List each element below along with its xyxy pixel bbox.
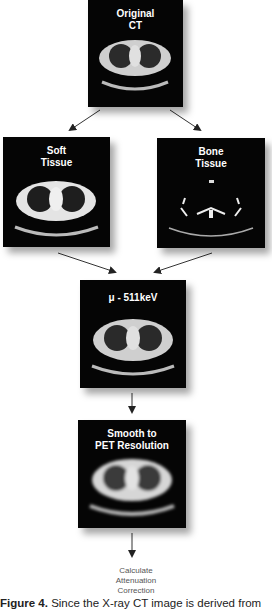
node-label: Soft Tissue: [3, 145, 110, 169]
calculate-attenuation-label: Calculate Attenuation Correction: [86, 566, 186, 596]
caption-label: Figure 4.: [0, 597, 48, 609]
caption-text: Since the X-ray CT image is derived from: [48, 597, 261, 609]
bone-tissue-panel: Bone Tissue: [157, 138, 265, 248]
node-label: Smooth to PET Resolution: [78, 428, 186, 452]
original-ct-panel: Original CT: [88, 0, 183, 107]
node-label: Original CT: [88, 8, 183, 32]
node-label: μ - 511keV: [80, 292, 186, 304]
soft-tissue-panel: Soft Tissue: [3, 137, 110, 247]
node-label: Bone Tissue: [157, 146, 265, 170]
figure-caption: Figure 4. Since the X-ray CT image is de…: [0, 597, 272, 609]
mu-511kev-panel: μ - 511keV: [80, 280, 186, 388]
smooth-pet-panel: Smooth to PET Resolution: [78, 420, 186, 528]
